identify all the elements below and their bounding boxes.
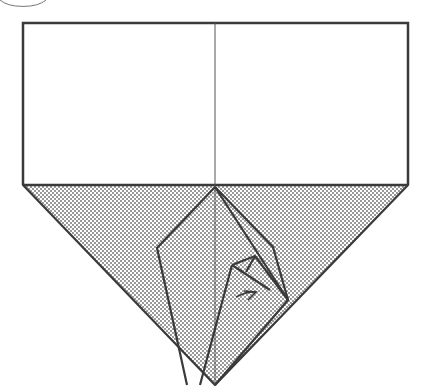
step-circle: [0, 0, 46, 6]
origami-diagram: [0, 0, 424, 392]
